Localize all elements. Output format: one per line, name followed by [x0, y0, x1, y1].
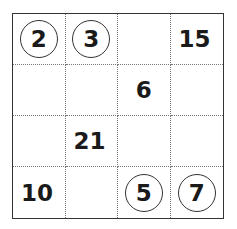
cell-value: 5	[136, 180, 152, 206]
cell-r3-c3[interactable]: 7	[171, 167, 224, 218]
cell-value: 2	[31, 26, 47, 52]
cell-r0-c2[interactable]	[118, 14, 171, 65]
cell-value: 6	[136, 77, 152, 103]
circled-clue: 3	[72, 20, 110, 58]
cell-r3-c2[interactable]: 5	[118, 167, 171, 218]
cell-r3-c0[interactable]: 10	[13, 167, 66, 218]
cell-value: 7	[189, 180, 205, 206]
cell-r0-c1[interactable]: 3	[66, 14, 119, 65]
cell-r2-c1[interactable]: 21	[66, 116, 119, 167]
cell-r1-c3[interactable]	[171, 65, 224, 116]
cell-r2-c2[interactable]	[118, 116, 171, 167]
puzzle-grid: 2 3 15 6 21 10 5 7	[12, 13, 224, 219]
circled-clue: 2	[20, 20, 58, 58]
cell-r0-c0[interactable]: 2	[13, 14, 66, 65]
cell-r2-c3[interactable]	[171, 116, 224, 167]
cell-r2-c0[interactable]	[13, 116, 66, 167]
cell-r1-c2[interactable]: 6	[118, 65, 171, 116]
cell-value: 21	[74, 128, 106, 154]
cell-value: 15	[179, 26, 211, 52]
cell-r1-c0[interactable]	[13, 65, 66, 116]
cell-value: 3	[83, 26, 99, 52]
cell-r1-c1[interactable]	[66, 65, 119, 116]
cell-r3-c1[interactable]	[66, 167, 119, 218]
circled-clue: 7	[178, 174, 216, 212]
cell-r0-c3[interactable]: 15	[171, 14, 224, 65]
cell-value: 10	[21, 180, 53, 206]
circled-clue: 5	[125, 174, 163, 212]
